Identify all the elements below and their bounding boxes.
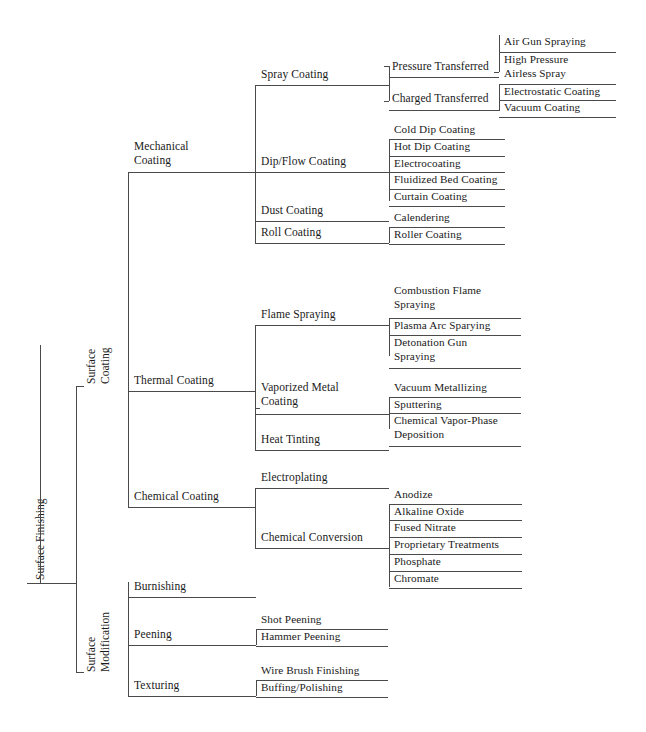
leaf-hammer-peening: Hammer Peening: [261, 630, 340, 644]
level3-label-roll-coating: Roll Coating: [261, 226, 321, 240]
root-to-surface-coating: [76, 386, 84, 387]
root-underline: [40, 345, 41, 583]
leaf-hammer-peening-underline: [256, 646, 388, 647]
leaf-chromate: Chromate: [394, 572, 439, 586]
peening-underline: [128, 645, 256, 646]
leaf-chemical-vapor-phase-deposition: Chemical Vapor-Phase Deposition: [394, 414, 498, 441]
leaf-electrostatic-coating: Electrostatic Coating: [504, 85, 600, 99]
root-to-surface-modification: [76, 672, 84, 673]
texturing-underline: [128, 696, 256, 697]
mechanical-coating-underline: [128, 172, 256, 173]
leaf-plasma-arc-sparying: Plasma Arc Sparying: [394, 319, 490, 333]
leaf-hot-dip-coating: Hot Dip Coating: [394, 140, 470, 154]
leaf-fused-nitrate: Fused Nitrate: [394, 521, 456, 535]
leaf-proprietary-treatments: Proprietary Treatments: [394, 538, 499, 552]
burnishing-underline: [128, 597, 256, 598]
vaporized-metal-coating-underline: [255, 414, 389, 415]
vaporized-leaf-connector: [384, 414, 389, 415]
level2-label-peening: Peening: [134, 628, 172, 642]
leaf-sputtering: Sputtering: [394, 398, 442, 412]
leaf-shot-peening: Shot Peening: [261, 613, 322, 627]
level3-label-flame-spraying: Flame Spraying: [261, 308, 336, 322]
chemical-coating-underline: [128, 507, 256, 508]
level4-label-pressure-transferred: Pressure Transferred: [392, 60, 489, 74]
spray-coating-underline: [255, 85, 389, 86]
leaf-vacuum-coating: Vacuum Coating: [504, 101, 580, 115]
leaf-vacuum-coating-underline: [499, 117, 616, 118]
surface-modification-bracket-ext: [76, 583, 77, 672]
leaf-anodize: Anodize: [394, 488, 433, 502]
surface-modification-children-bracket: [128, 597, 129, 696]
leaf-cold-dip-coating: Cold Dip Coating: [394, 123, 475, 137]
texturing-leaves-bracket: [256, 680, 257, 696]
root-children-bracket: [76, 386, 77, 583]
flame-leaf-connector: [384, 325, 389, 326]
leaf-phosphate: Phosphate: [394, 555, 441, 569]
level3-label-dip-flow-coating: Dip/Flow Coating: [261, 155, 346, 169]
flame-spraying-underline: [255, 325, 389, 326]
charged-leaves-bracket: [499, 84, 500, 111]
surface-finishing-tree: Surface Finishing Surface Coating Surfac…: [0, 0, 646, 732]
leaf-alkaline-oxide: Alkaline Oxide: [394, 505, 464, 519]
leaf-chemical-vapor-phase-deposition-underline: [389, 446, 521, 447]
thermal-coating-underline: [128, 391, 256, 392]
leaf-curtain-coating-underline: [389, 206, 505, 207]
conversion-leaf-connector: [384, 548, 389, 549]
peening-leaves-bracket: [256, 629, 257, 645]
leaf-curtain-coating: Curtain Coating: [394, 190, 467, 204]
level2-label-burnishing: Burnishing: [134, 580, 186, 594]
leaf-high-pressure-airless-spray: High Pressure Airless Spray: [504, 53, 568, 80]
surface-coating-children-bracket: [128, 172, 129, 507]
level2-label-chemical-coating: Chemical Coating: [134, 490, 219, 504]
charged-transferred-underline: [389, 110, 499, 111]
tc-to-vaporized: [255, 408, 260, 409]
spray-to-pressure: [384, 66, 389, 67]
level3-label-vaporized-metal-coating: Vaporized Metal Coating: [261, 381, 339, 408]
level4-label-charged-transferred: Charged Transferred: [392, 92, 489, 106]
leaf-air-gun-spraying: Air Gun Spraying: [504, 35, 586, 49]
leaf-fluidized-bed-coating: Fluidized Bed Coating: [394, 173, 497, 187]
mechanical-children-bracket: [255, 85, 256, 243]
spray-children-bracket: [389, 66, 390, 101]
chemical-children-bracket: [255, 488, 256, 548]
roll-coating-underline: [255, 243, 389, 244]
dust-coating-underline: [255, 221, 389, 222]
leaf-chromate-underline: [389, 588, 522, 589]
leaf-buffing-polishing-underline: [256, 697, 388, 698]
pressure-leaves-bracket: [499, 35, 500, 72]
leaf-calendering: Calendering: [394, 211, 450, 225]
chemical-conversion-underline: [255, 548, 389, 549]
leaf-buffing-polishing: Buffing/Polishing: [261, 681, 343, 695]
leaf-detonation-gun-spraying: Detonation Gun Spraying: [394, 336, 467, 363]
root-stem: [27, 583, 76, 584]
level1-label-surface-modification: Surface Modification: [85, 612, 112, 672]
level2-label-thermal-coating: Thermal Coating: [134, 374, 214, 388]
level1-label-surface-coating: Surface Coating: [85, 348, 112, 384]
leaf-roller-coating: Roller Coating: [394, 228, 462, 242]
level3-label-electroplating: Electroplating: [261, 471, 328, 485]
conversion-leaves-bracket: [389, 504, 390, 587]
dipflow-leaves-bracket: [389, 139, 390, 201]
level3-label-dust-coating: Dust Coating: [261, 204, 323, 218]
flame-leaves-bracket: [389, 318, 390, 356]
heat-tinting-underline: [255, 450, 389, 451]
dip-flow-coating-underline: [255, 172, 389, 173]
leaf-roller-coating-underline: [389, 244, 505, 245]
spray-to-charged: [384, 101, 389, 102]
leaf-wire-brush-finishing: Wire Brush Finishing: [261, 664, 360, 678]
leaf-detonation-gun-spraying-underline: [389, 368, 521, 369]
leaf-electrocoating: Electrocoating: [394, 157, 461, 171]
roll-leaves-bracket: [389, 227, 390, 243]
leaf-vacuum-metallizing: Vacuum Metallizing: [394, 381, 487, 395]
level2-label-mechanical-coating: Mechanical Coating: [134, 140, 189, 167]
pressure-transferred-underline: [389, 77, 499, 78]
level3-label-spray-coating: Spray Coating: [261, 68, 328, 82]
charged-leaf-connector: [494, 110, 499, 111]
thermal-children-bracket: [255, 325, 256, 450]
electroplating-underline: [255, 488, 389, 489]
level3-label-chemical-conversion: Chemical Conversion: [261, 531, 363, 545]
leaf-combustion-flame-spraying: Combustion Flame Spraying: [394, 284, 481, 311]
level2-label-texturing: Texturing: [134, 679, 179, 693]
level3-label-heat-tinting: Heat Tinting: [261, 433, 320, 447]
pressure-leaf-connector: [494, 72, 499, 73]
